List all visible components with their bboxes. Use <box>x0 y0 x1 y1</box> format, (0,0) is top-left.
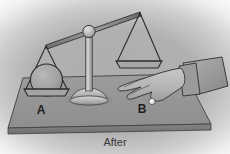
figure-canvas: A B After <box>0 0 230 154</box>
fulcrum-knob-icon <box>83 25 95 37</box>
figure-caption: After <box>103 136 127 148</box>
pan-a <box>24 46 69 96</box>
label-a: A <box>37 103 46 117</box>
label-b: B <box>138 102 147 116</box>
small-ball-icon <box>149 98 155 104</box>
illustration: A B After <box>0 0 230 154</box>
